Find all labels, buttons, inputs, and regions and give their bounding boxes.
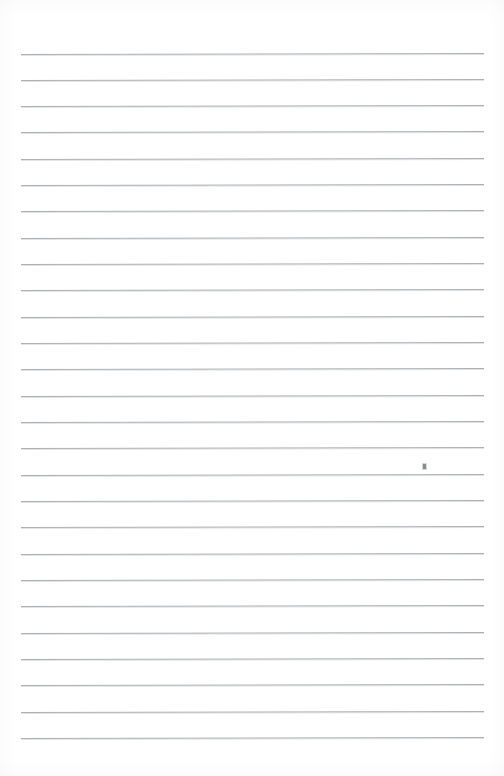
rule-line — [21, 500, 484, 502]
rule-line — [21, 526, 484, 528]
rule-line — [21, 658, 484, 660]
rule-line — [21, 395, 484, 397]
rule-line — [21, 605, 484, 607]
rule-line — [21, 132, 484, 134]
rule-line — [21, 237, 484, 239]
rule-line — [21, 263, 484, 265]
rule-line — [21, 737, 484, 739]
ruled-lines-group — [0, 0, 504, 776]
rule-line — [21, 421, 484, 423]
rule-line — [21, 684, 484, 686]
rule-line — [21, 342, 484, 344]
rule-line — [21, 553, 484, 555]
rule-line — [21, 105, 484, 107]
rule-line — [21, 632, 484, 634]
rule-line — [21, 579, 484, 581]
rule-line — [21, 711, 484, 713]
rule-line — [21, 289, 484, 291]
rule-line — [21, 447, 484, 449]
rule-line — [21, 53, 484, 55]
rule-line — [21, 368, 484, 370]
rule-line — [21, 474, 484, 476]
rule-line — [21, 184, 484, 186]
rule-line — [21, 210, 484, 212]
pencil-tick-mark — [423, 464, 426, 469]
rule-line — [21, 158, 484, 160]
lined-paper-page — [0, 0, 504, 776]
rule-line — [21, 79, 484, 81]
rule-line — [21, 316, 484, 318]
